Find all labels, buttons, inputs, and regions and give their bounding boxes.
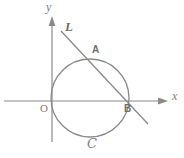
x-axis-arrowhead <box>158 98 168 105</box>
diagram-canvas <box>0 0 184 158</box>
circle-curve-c <box>51 59 129 137</box>
y-axis-label: y <box>46 1 51 13</box>
origin-label: O <box>40 103 48 114</box>
point-label-a: A <box>92 45 99 55</box>
point-label-b: B <box>124 104 131 114</box>
geometry-figure: y x L O A B C <box>0 0 184 158</box>
x-axis-label: x <box>172 90 177 102</box>
y-axis <box>49 16 56 142</box>
curve-label-c: C <box>87 137 97 150</box>
x-axis <box>4 98 168 105</box>
line-l-label: L <box>65 20 73 33</box>
line-l <box>61 31 148 124</box>
y-axis-arrowhead <box>49 16 56 26</box>
